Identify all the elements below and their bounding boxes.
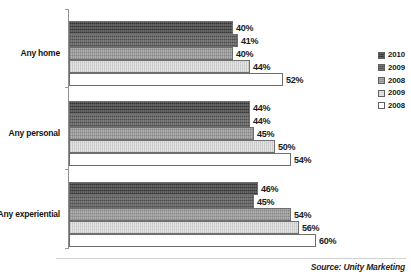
bar-value-label: 45% — [257, 129, 274, 138]
bar-row: 52% — [69, 73, 365, 86]
category-label: Any personal — [9, 129, 60, 138]
bar — [69, 21, 233, 34]
bar — [69, 127, 254, 140]
bar-group: 46%45%54%56%60% — [69, 182, 365, 247]
bar-value-label: 60% — [319, 236, 336, 245]
bar — [69, 114, 250, 127]
legend-swatch-icon — [378, 52, 385, 59]
category-axis-labels: Any homeAny personalAny experiential — [0, 9, 64, 249]
bar-row: 40% — [69, 47, 365, 60]
bar-row: 54% — [69, 208, 365, 221]
legend-item[interactable]: 2008 — [378, 74, 411, 87]
bar-row: 60% — [69, 234, 365, 247]
plot-area: 40%41%40%44%52%44%44%45%50%54%46%45%54%5… — [68, 9, 365, 249]
bar-value-label: 52% — [286, 75, 303, 84]
bar-row: 44% — [69, 101, 365, 114]
bar-row: 45% — [69, 127, 365, 140]
legend-swatch-icon — [378, 77, 385, 84]
bar-row: 44% — [69, 114, 365, 127]
bar-value-label: 56% — [302, 223, 319, 232]
bar — [69, 221, 299, 234]
bar-value-label: 40% — [236, 49, 253, 58]
bar-row: 56% — [69, 221, 365, 234]
bar-row: 41% — [69, 34, 365, 47]
bar-value-label: 50% — [278, 142, 295, 151]
legend-swatch-icon — [378, 90, 385, 97]
bar-value-label: 54% — [294, 155, 311, 164]
bar-value-label: 44% — [253, 62, 270, 71]
bar — [69, 47, 233, 60]
category-label: Any home — [21, 49, 61, 58]
bar — [69, 153, 291, 166]
bar — [69, 73, 283, 86]
legend-item[interactable]: 2009 — [378, 87, 411, 100]
axis-tick — [65, 9, 69, 10]
bar-row: 54% — [69, 153, 365, 166]
footer-divider — [56, 258, 406, 259]
legend-label: 2009 — [388, 64, 405, 72]
legend: 20102009200820092008 — [378, 49, 411, 112]
axis-tick — [65, 169, 69, 170]
bar-row: 40% — [69, 21, 365, 34]
legend-label: 2009 — [388, 89, 405, 97]
bar-row: 46% — [69, 182, 365, 195]
bar-value-label: 54% — [294, 210, 311, 219]
legend-item[interactable]: 2008 — [378, 99, 411, 112]
legend-swatch-icon — [378, 64, 385, 71]
bar — [69, 60, 250, 73]
bar-value-label: 45% — [257, 197, 274, 206]
legend-label: 2008 — [388, 102, 405, 110]
legend-item[interactable]: 2009 — [378, 62, 411, 75]
bar-value-label: 40% — [236, 23, 253, 32]
bar-row: 50% — [69, 140, 365, 153]
legend-swatch-icon — [378, 102, 385, 109]
bar-row: 44% — [69, 60, 365, 73]
bar — [69, 234, 316, 247]
bar-value-label: 44% — [253, 116, 270, 125]
bar-chart: Any homeAny personalAny experiential 40%… — [0, 0, 411, 276]
bar-row: 45% — [69, 195, 365, 208]
bar-value-label: 41% — [241, 36, 258, 45]
category-label: Any experiential — [0, 210, 60, 219]
bar-value-label: 44% — [253, 103, 270, 112]
axis-tick — [65, 87, 69, 88]
bar — [69, 182, 258, 195]
bar-value-label: 46% — [261, 184, 278, 193]
bar — [69, 140, 275, 153]
bar — [69, 195, 254, 208]
bar — [69, 101, 250, 114]
legend-item[interactable]: 2010 — [378, 49, 411, 62]
legend-label: 2010 — [388, 51, 405, 59]
bar — [69, 34, 238, 47]
bar — [69, 208, 291, 221]
bar-group: 44%44%45%50%54% — [69, 101, 365, 166]
bar-group: 40%41%40%44%52% — [69, 21, 365, 86]
axis-tick — [65, 248, 69, 249]
source-note: Source: Unity Marketing — [311, 263, 405, 272]
legend-label: 2008 — [388, 77, 405, 85]
